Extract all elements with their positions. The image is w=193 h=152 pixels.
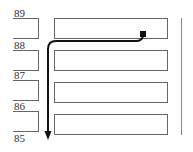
- arrowhead-down-icon: [45, 131, 52, 140]
- route-line: [48, 36, 143, 132]
- route-path: [0, 0, 193, 152]
- start-square-marker: [140, 31, 146, 37]
